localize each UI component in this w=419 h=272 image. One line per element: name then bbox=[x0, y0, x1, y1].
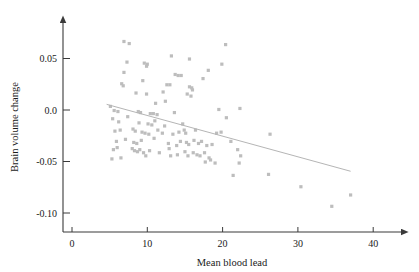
data-point bbox=[133, 149, 136, 152]
data-point bbox=[163, 124, 166, 127]
data-point bbox=[128, 42, 131, 45]
data-point bbox=[187, 143, 190, 146]
data-point bbox=[147, 133, 150, 136]
data-point bbox=[152, 112, 155, 115]
data-point bbox=[119, 128, 122, 131]
data-point bbox=[134, 91, 137, 94]
data-point bbox=[149, 112, 152, 115]
data-point bbox=[224, 43, 227, 46]
data-point bbox=[349, 193, 352, 196]
data-point bbox=[137, 121, 140, 124]
data-point bbox=[200, 140, 203, 143]
y-tick-label: -0.10 bbox=[36, 208, 57, 219]
data-point bbox=[180, 74, 183, 77]
data-point bbox=[173, 111, 176, 114]
data-point bbox=[217, 108, 220, 111]
data-point bbox=[203, 151, 206, 154]
data-point bbox=[186, 92, 189, 95]
data-point bbox=[175, 144, 178, 147]
data-point bbox=[192, 139, 195, 142]
data-point bbox=[122, 71, 125, 74]
data-point bbox=[161, 132, 164, 135]
data-point bbox=[116, 110, 119, 113]
data-point bbox=[168, 147, 171, 150]
data-point bbox=[145, 92, 148, 95]
data-point bbox=[195, 153, 198, 156]
data-point bbox=[145, 65, 148, 68]
y-axis-label: Brain volume change bbox=[9, 82, 20, 172]
x-tick-label: 40 bbox=[368, 238, 378, 249]
data-point bbox=[167, 142, 170, 145]
data-point bbox=[162, 90, 165, 93]
data-point bbox=[116, 146, 119, 149]
data-point bbox=[205, 144, 208, 147]
data-point bbox=[177, 131, 180, 134]
x-tick-label: 0 bbox=[70, 238, 75, 249]
data-point bbox=[158, 151, 161, 154]
data-point bbox=[142, 151, 145, 154]
data-point bbox=[122, 84, 125, 87]
data-point bbox=[111, 117, 114, 120]
data-points-layer bbox=[109, 40, 352, 208]
data-point bbox=[168, 83, 171, 86]
data-point bbox=[204, 160, 207, 163]
data-point bbox=[177, 74, 180, 77]
data-point bbox=[132, 141, 135, 144]
data-point bbox=[165, 83, 168, 86]
data-point bbox=[238, 107, 241, 110]
data-point bbox=[197, 142, 200, 145]
data-point bbox=[189, 95, 192, 98]
data-point bbox=[186, 154, 189, 157]
y-tick-label: 0.05 bbox=[40, 53, 58, 64]
data-point bbox=[169, 154, 172, 157]
y-tick-label: 0.0 bbox=[45, 105, 58, 116]
data-point bbox=[209, 158, 212, 161]
data-point bbox=[122, 40, 125, 43]
data-point bbox=[115, 140, 118, 143]
data-point bbox=[146, 122, 149, 125]
scatter-plot-figure: 010203040 0.050.0-0.05-0.10 Mean blood l… bbox=[0, 0, 419, 272]
data-point bbox=[188, 57, 191, 60]
data-point bbox=[176, 153, 179, 156]
data-point bbox=[225, 116, 228, 119]
data-point bbox=[155, 113, 158, 116]
x-axis-ticks: 010203040 bbox=[70, 227, 379, 249]
data-point bbox=[170, 54, 173, 57]
data-point bbox=[125, 61, 128, 64]
data-point bbox=[143, 62, 146, 65]
data-point bbox=[183, 128, 186, 131]
data-point bbox=[141, 79, 144, 82]
data-point bbox=[207, 69, 210, 72]
y-tick-label: -0.05 bbox=[36, 156, 57, 167]
x-tick-label: 30 bbox=[293, 238, 303, 249]
data-point bbox=[143, 132, 146, 135]
data-point bbox=[192, 151, 195, 154]
data-point bbox=[154, 102, 157, 105]
x-axis-label: Mean blood lead bbox=[197, 257, 268, 268]
data-point bbox=[113, 130, 116, 133]
chart-canvas: 010203040 0.050.0-0.05-0.10 Mean blood l… bbox=[0, 0, 419, 272]
data-point bbox=[148, 149, 151, 152]
data-point bbox=[213, 161, 216, 164]
y-axis-ticks: 0.050.0-0.05-0.10 bbox=[36, 53, 70, 219]
x-tick-label: 10 bbox=[142, 238, 152, 249]
data-point bbox=[117, 120, 120, 123]
data-point bbox=[267, 173, 270, 176]
data-point bbox=[113, 109, 116, 112]
data-point bbox=[164, 100, 167, 103]
data-point bbox=[239, 154, 242, 157]
data-point bbox=[184, 132, 187, 135]
data-point bbox=[236, 148, 239, 151]
regression-line bbox=[107, 104, 351, 171]
data-point bbox=[219, 131, 222, 134]
data-point bbox=[119, 156, 122, 159]
data-point bbox=[268, 133, 271, 136]
data-point bbox=[183, 150, 186, 153]
data-point bbox=[140, 139, 143, 142]
data-point bbox=[134, 130, 137, 133]
data-point bbox=[112, 148, 115, 151]
data-point bbox=[126, 115, 129, 118]
x-tick-label: 20 bbox=[218, 238, 228, 249]
data-point bbox=[110, 157, 113, 160]
data-point bbox=[191, 88, 194, 91]
